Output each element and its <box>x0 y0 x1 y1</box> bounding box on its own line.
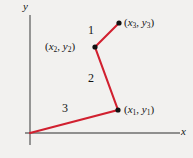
p1-x-sub: 1 <box>133 108 137 117</box>
diagram-canvas <box>0 0 193 158</box>
p2-x-var: x <box>49 40 54 52</box>
axes-group <box>25 15 180 145</box>
point-label-p1: (x1, y1) <box>124 104 154 115</box>
p2-y-sub: 2 <box>68 45 72 54</box>
point-marker-p3 <box>116 20 121 25</box>
point-marker-p2 <box>92 44 97 49</box>
y-axis-label: y <box>23 1 28 12</box>
p1-y-var: y <box>142 103 147 115</box>
p3-x-var: x <box>128 16 133 28</box>
p1-x-var: x <box>128 103 133 115</box>
p3-close-paren: ) <box>150 16 154 28</box>
point-label-p3: (x3, y3) <box>124 17 154 28</box>
p1-y-sub: 1 <box>147 108 151 117</box>
p1-close-paren: ) <box>150 103 154 115</box>
p3-x-sub: 3 <box>133 21 137 30</box>
x-axis-label: x <box>181 126 186 137</box>
point-marker-p1 <box>115 107 120 112</box>
p3-y-var: y <box>142 16 147 28</box>
segment-label-2: 2 <box>88 72 94 84</box>
p2-close-paren: ) <box>71 40 75 52</box>
p2-y-var: y <box>63 40 68 52</box>
point-label-p2: (x2, y2) <box>45 41 75 52</box>
p2-x-sub: 2 <box>54 45 58 54</box>
segment-label-3: 3 <box>62 102 68 114</box>
p3-y-sub: 3 <box>147 21 151 30</box>
segment-label-1: 1 <box>88 24 94 36</box>
figure-container: y x (x3, y3) (x2, y2) (x1, y1) 1 2 3 <box>0 0 193 158</box>
